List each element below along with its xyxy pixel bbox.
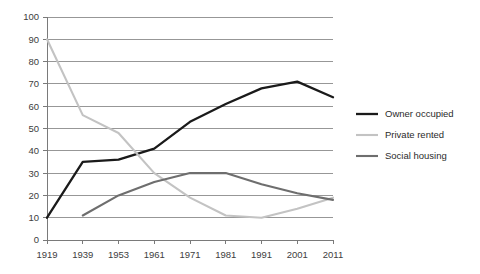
x-axis-tick-label: 1961 <box>144 249 165 260</box>
y-axis-tick-label: 0 <box>34 234 39 245</box>
line-chart: 0102030405060708090100191919391953196119… <box>0 0 480 274</box>
y-axis-tick-label: 30 <box>28 168 39 179</box>
y-axis-tick-label: 40 <box>28 145 39 156</box>
y-axis-tick-label: 20 <box>28 190 39 201</box>
legend: Owner occupiedPrivate rentedSocial housi… <box>356 108 454 161</box>
y-axis-tick-label: 90 <box>28 34 39 45</box>
x-axis-tick-label: 1919 <box>36 249 57 260</box>
y-axis-tick-label: 50 <box>28 123 39 134</box>
x-axis-tick-label: 1991 <box>251 249 272 260</box>
x-axis-tick-label: 1939 <box>72 249 93 260</box>
gridlines <box>47 17 333 240</box>
y-axis: 0102030405060708090100 <box>23 11 47 245</box>
x-axis-tick-label: 1953 <box>108 249 129 260</box>
legend-label-owner-occupied: Owner occupied <box>385 108 454 119</box>
legend-label-private-rented: Private rented <box>385 129 444 140</box>
y-axis-tick-label: 80 <box>28 56 39 67</box>
x-axis-tick-label: 1981 <box>215 249 236 260</box>
y-axis-tick-label: 60 <box>28 101 39 112</box>
y-axis-tick-label: 70 <box>28 78 39 89</box>
x-axis-tick-label: 2011 <box>323 249 343 260</box>
y-axis-tick-label: 10 <box>28 212 39 223</box>
legend-label-social-housing: Social housing <box>385 150 447 161</box>
x-axis-tick-label: 2001 <box>287 249 308 260</box>
x-axis-tick-label: 1971 <box>179 249 200 260</box>
y-axis-tick-label: 100 <box>23 11 39 22</box>
chart-canvas: 0102030405060708090100191919391953196119… <box>0 0 480 274</box>
x-axis: 191919391953196119711981199120012011 <box>36 240 343 260</box>
